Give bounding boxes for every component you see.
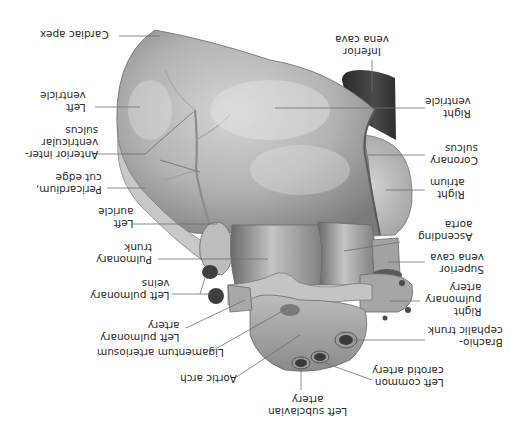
label-right-pulmonary-artery: Right pulmonary artery <box>425 282 482 318</box>
label-pericardium-cut-edge: Pericardium, cut edge <box>36 172 102 196</box>
label-left-subclavian-artery: Left subclavian artery <box>268 394 347 418</box>
left-pulmonary-vein-opening <box>208 288 224 304</box>
label-left-common-carotid-artery: Left common carotid artery <box>372 365 444 389</box>
label-ligamentum-arteriosum: Ligamentum arteriosum <box>97 347 224 359</box>
highlight <box>128 80 172 140</box>
label-left-pulmonary-veins: Left pulmonary veins <box>90 278 170 302</box>
left-pulmonary-vein-opening <box>202 265 218 279</box>
heart-anatomy-figure: Cardiac apex Inferior vena cava Left ven… <box>0 0 517 434</box>
label-right-ventricle: Right ventricle <box>425 96 471 120</box>
label-pulmonary-trunk: Pulmonary trunk <box>96 242 152 266</box>
rpa-branch-opening <box>383 316 388 321</box>
label-left-ventricle: Left ventricle <box>40 90 86 114</box>
label-left-pulmonary-artery: Left pulmonary artery <box>100 320 180 344</box>
label-superior-vena-cava: Superior vena cava <box>430 252 484 276</box>
highlight <box>250 145 350 195</box>
label-aortic-arch: Aortic arch <box>180 373 237 385</box>
label-right-atrium: Right atrium <box>430 177 465 201</box>
label-brachiocephalic-trunk: Brachio- cephalic trunk <box>428 325 503 349</box>
label-ascending-aorta: Ascending aorta <box>418 219 472 243</box>
label-inferior-vena-cava: Inferior vena cava <box>335 34 389 58</box>
rpa-branch-opening <box>399 280 405 286</box>
rpa-branch-opening <box>405 307 411 313</box>
highlight <box>210 80 330 140</box>
left-common-carotid-shape <box>311 351 329 363</box>
left-subclavian-shape <box>292 357 310 369</box>
left-pulmonary-artery-shape <box>228 285 252 312</box>
label-anterior-interventricular-sulcus: Anterior inter- ventricular sulcus <box>25 125 98 161</box>
ligamentum-shadow <box>280 304 300 316</box>
label-left-auricle: Left auricle <box>98 206 133 230</box>
label-coronary-sulcus: Coronary sulcus <box>430 143 478 167</box>
leader-left-common-carotid <box>325 363 372 380</box>
leader-left-pulmonary-artery <box>186 300 245 328</box>
leader-left-pulmonary-veins-b <box>200 278 205 294</box>
label-cardiac-apex: Cardiac apex <box>40 29 109 41</box>
